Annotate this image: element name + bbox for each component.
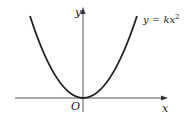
y-axis-arrow-icon xyxy=(81,7,86,14)
x-axis-label: x xyxy=(162,102,169,115)
origin-label: O xyxy=(71,100,80,113)
parabola-diagram: y x O y = kx2 xyxy=(0,0,189,117)
y-axis-label: y xyxy=(74,6,82,19)
x-axis-arrow-icon xyxy=(161,96,168,101)
equation-label: y = kx2 xyxy=(142,13,180,25)
